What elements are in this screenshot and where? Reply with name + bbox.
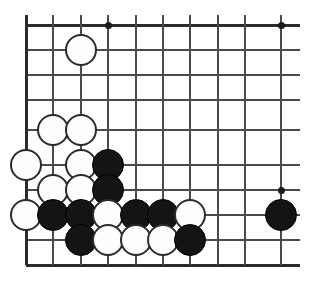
star-point-right [278, 187, 285, 194]
stone-black-c9-r7[interactable] [265, 199, 297, 231]
stone-black-c6-r8[interactable] [174, 224, 206, 256]
grid-line-vertical-8 [244, 15, 246, 265]
goban[interactable] [0, 0, 321, 288]
stone-white-c0-r5[interactable] [10, 149, 42, 181]
grid-line-vertical-7 [217, 15, 219, 265]
star-point-top-left [105, 22, 112, 29]
star-point-top-right [278, 22, 285, 29]
go-board-figure [0, 0, 321, 288]
stone-white-c2-r1[interactable] [65, 34, 97, 66]
stone-white-c2-r4[interactable] [65, 114, 97, 146]
